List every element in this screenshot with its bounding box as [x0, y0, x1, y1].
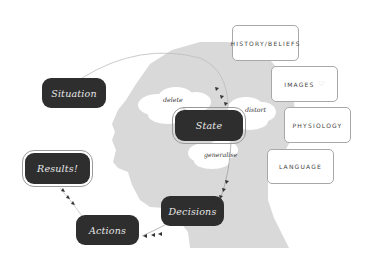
- influence-history-beliefs-label: HISTORY/BELIEFS: [231, 40, 301, 47]
- influence-images: IMAGES ♡: [271, 66, 338, 102]
- node-situation: Situation: [42, 78, 106, 108]
- node-situation-label: Situation: [51, 88, 97, 99]
- connector-actions-to-results: [60, 188, 82, 216]
- node-decisions-label: Decisions: [168, 206, 216, 217]
- node-state-label: State: [196, 120, 222, 131]
- node-actions: Actions: [76, 215, 139, 245]
- influence-language: LANGUAGE: [267, 149, 334, 184]
- influence-language-label: LANGUAGE: [279, 163, 322, 170]
- diagram-canvas: Situation State delete distort generalis…: [0, 0, 371, 279]
- influence-physiology: PHYSIOLOGY: [284, 107, 351, 143]
- node-actions-label: Actions: [89, 225, 126, 236]
- influence-physiology-label: PHYSIOLOGY: [293, 122, 343, 129]
- influence-history-beliefs: HISTORY/BELIEFS: [232, 25, 299, 61]
- node-decisions: Decisions: [161, 196, 224, 226]
- filter-label-distort: distort: [245, 106, 266, 113]
- filter-label-delete: delete: [163, 96, 183, 103]
- influence-images-label: IMAGES: [284, 81, 314, 88]
- arrowheads-actions-to-results: [61, 188, 75, 205]
- arrowheads-decisions-to-actions: [143, 232, 162, 238]
- node-state: State: [175, 110, 243, 141]
- node-results-label: Results!: [37, 163, 78, 174]
- filter-label-generalise: generalise: [204, 151, 237, 158]
- node-results: Results!: [25, 153, 90, 184]
- heart-icon: ♡: [319, 80, 325, 88]
